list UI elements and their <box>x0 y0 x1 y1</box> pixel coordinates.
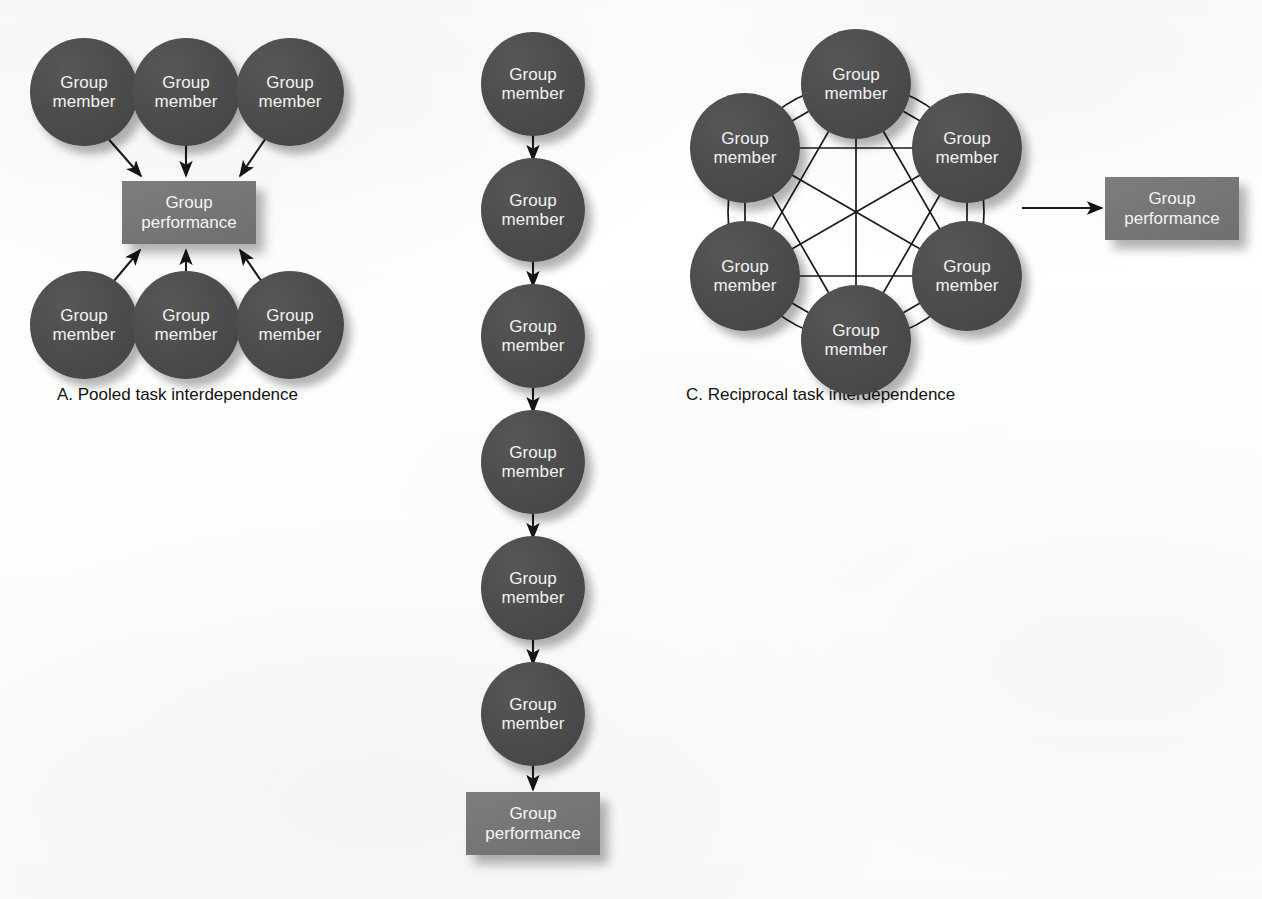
member-label-line2: member <box>155 92 218 111</box>
member-label-line1: Group <box>60 73 108 92</box>
member-b-1: Groupmember <box>481 32 585 136</box>
member-label-line2: member <box>155 325 218 344</box>
member-label-line2: member <box>714 148 777 167</box>
member-label-line2: member <box>259 92 322 111</box>
member-b-5: Groupmember <box>481 536 585 640</box>
member-a-top-right: Groupmember <box>236 38 344 146</box>
member-a-bottom-center: Groupmember <box>132 271 240 379</box>
member-label-line2: member <box>502 714 565 733</box>
member-label-line1: Group <box>943 129 991 148</box>
member-label-line2: member <box>53 325 116 344</box>
task-interdependence-diagram: GroupmemberGroupmemberGroupmemberGroupme… <box>0 0 1262 899</box>
member-label-line2: member <box>714 276 777 295</box>
member-label-line2: member <box>936 276 999 295</box>
member-label-line2: member <box>502 462 565 481</box>
member-c-lower-right: Groupmember <box>912 221 1022 331</box>
member-label-line2: member <box>936 148 999 167</box>
member-label-line1: Group <box>162 73 210 92</box>
performance-label-line2: performance <box>485 824 580 843</box>
performance-label-line1: Group <box>509 804 556 823</box>
member-label-line1: Group <box>60 306 108 325</box>
member-b-2: Groupmember <box>481 158 585 262</box>
member-a-bottom-left: Groupmember <box>30 271 138 379</box>
member-label-line2: member <box>825 84 888 103</box>
member-label-line2: member <box>259 325 322 344</box>
performance-label-line2: performance <box>141 213 236 232</box>
member-b-6: Groupmember <box>481 662 585 766</box>
member-label-line1: Group <box>832 65 880 84</box>
member-label-line1: Group <box>162 306 210 325</box>
member-label-line1: Group <box>509 317 557 336</box>
member-c-top: Groupmember <box>801 29 911 139</box>
member-label-line1: Group <box>266 73 314 92</box>
member-label-line1: Group <box>721 129 769 148</box>
performance-label-line1: Group <box>1148 189 1195 208</box>
member-a-bottom-right: Groupmember <box>236 271 344 379</box>
member-a-top-left: Groupmember <box>30 38 138 146</box>
member-label-line2: member <box>53 92 116 111</box>
member-label-line2: member <box>502 210 565 229</box>
member-label-line1: Group <box>509 695 557 714</box>
member-a-top-center: Groupmember <box>132 38 240 146</box>
member-label-line2: member <box>502 84 565 103</box>
member-label-line1: Group <box>509 191 557 210</box>
member-label-line2: member <box>502 336 565 355</box>
member-label-line2: member <box>502 588 565 607</box>
member-label-line1: Group <box>832 321 880 340</box>
member-label-line1: Group <box>943 257 991 276</box>
member-c-upper-right: Groupmember <box>912 93 1022 203</box>
member-label-line2: member <box>825 340 888 359</box>
member-label-line1: Group <box>509 65 557 84</box>
member-c-lower-left: Groupmember <box>690 221 800 331</box>
member-label-line1: Group <box>509 443 557 462</box>
performance-label-line2: performance <box>1124 209 1219 228</box>
member-label-line1: Group <box>509 569 557 588</box>
group-performance-box-c: Groupperformance <box>1105 177 1239 240</box>
group-performance-box-a: Groupperformance <box>122 181 256 244</box>
member-b-3: Groupmember <box>481 284 585 388</box>
member-b-4: Groupmember <box>481 410 585 514</box>
group-performance-box-b: Groupperformance <box>466 792 600 855</box>
member-c-bottom: Groupmember <box>801 285 911 395</box>
member-label-line1: Group <box>266 306 314 325</box>
performance-label-line1: Group <box>165 193 212 212</box>
member-c-upper-left: Groupmember <box>690 93 800 203</box>
member-label-line1: Group <box>721 257 769 276</box>
